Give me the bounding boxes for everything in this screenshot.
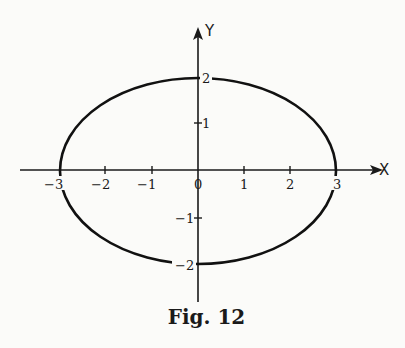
x-axis-label: X [379,161,389,179]
y-tick-label-neg2: −2 [175,258,194,273]
x-tick-label-3: 3 [333,177,341,192]
x-tick-label-1: 1 [240,177,248,192]
x-tick-label-2: 2 [286,177,294,192]
x-tick-label-neg3: −3 [44,177,63,192]
figure-caption: Fig. 12 [0,305,405,329]
x-tick-label-neg2: −2 [91,177,110,192]
y-tick-label-1: 1 [202,116,210,131]
ellipse-plot: −3 −2 −1 0 1 2 3 2 1 −1 −2 X Y [0,0,405,348]
y-axis-label: Y [204,22,215,40]
x-tick-label-0: 0 [194,177,202,192]
ellipse-figure: −3 −2 −1 0 1 2 3 2 1 −1 −2 X Y Fig. 12 [0,0,405,348]
x-tick-label-neg1: −1 [137,177,156,192]
y-tick-label-2: 2 [202,71,210,86]
y-tick-label-neg1: −1 [175,211,194,226]
